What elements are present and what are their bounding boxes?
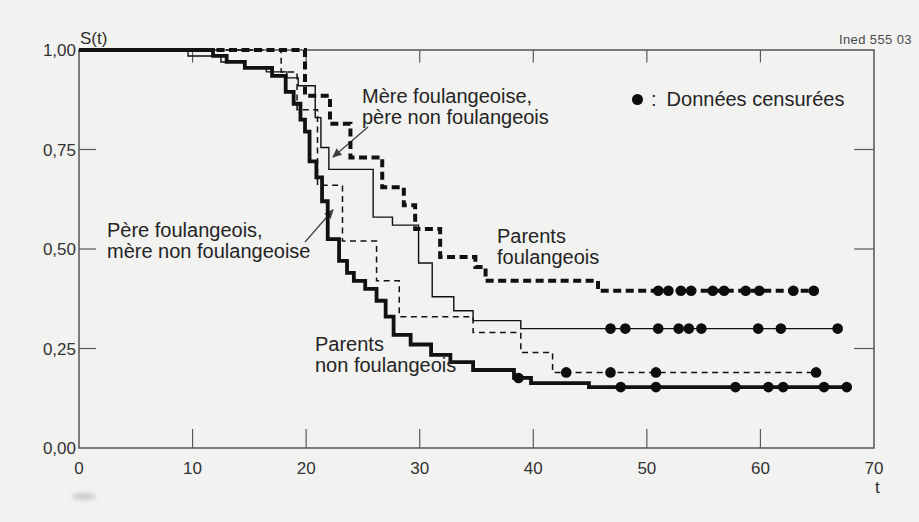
censored-point (620, 323, 631, 334)
censored-point (513, 373, 524, 384)
x-tick-label: 10 (163, 459, 223, 479)
annotation-line: père non foulangeois (362, 107, 549, 128)
x-tick-label: 50 (617, 459, 677, 479)
censored-point (811, 367, 822, 378)
censored-point (653, 285, 664, 296)
censored-point (651, 382, 662, 393)
censored-point (651, 367, 662, 378)
y-tick-label: 0,50 (28, 240, 76, 260)
y-tick-label: 0,25 (28, 340, 76, 360)
y-tick-label: 0,75 (28, 141, 76, 161)
censored-point (605, 323, 616, 334)
y-axis-title: S(t) (80, 29, 107, 49)
censored-point (605, 367, 616, 378)
source-note: Ined 555 03 (839, 32, 912, 47)
annotation-line: Parents (497, 226, 599, 247)
censored-point (778, 382, 789, 393)
censored-point (753, 323, 764, 334)
censored-point (819, 382, 830, 393)
censored-point (832, 323, 843, 334)
annotation-line: Père foulangeois, (107, 220, 310, 241)
annotation-line: non foulangeois (315, 355, 456, 376)
censored-point (615, 382, 626, 393)
censored-point (696, 323, 707, 334)
annotation-line: Mère foulangeoise, (362, 86, 549, 107)
y-tick-label: 1,00 (28, 41, 76, 61)
x-tick-label: 60 (730, 459, 790, 479)
censored-point (776, 323, 787, 334)
x-tick-label: 0 (49, 459, 109, 479)
x-tick-label: 40 (503, 459, 563, 479)
censored-point (788, 285, 799, 296)
censored-point (663, 285, 674, 296)
x-tick-label: 30 (390, 459, 450, 479)
censored-point (684, 323, 695, 334)
censored-point (653, 323, 664, 334)
censored-point (707, 285, 718, 296)
annotation-pere-foulangeois: Père foulangeois, mère non foulangeoise (107, 220, 310, 262)
censored-point (740, 285, 751, 296)
x-tick-label: 20 (276, 459, 336, 479)
censored-point (754, 285, 765, 296)
censored-dot-icon (632, 94, 643, 105)
censored-point (841, 382, 852, 393)
censored-point (686, 285, 697, 296)
y-tick-label: 0,00 (28, 439, 76, 459)
x-axis-title: t (875, 478, 880, 498)
censored-legend: : Données censurées (632, 88, 844, 111)
annotation-line: Parents (315, 334, 456, 355)
censored-point (763, 382, 774, 393)
censored-point (561, 367, 572, 378)
survival-figure: S(t) t Ined 555 03 : Données censurées M… (0, 0, 919, 522)
annotation-parents-foulangeois: Parents foulangeois (497, 226, 599, 268)
censored-point (719, 285, 730, 296)
annotation-parents-non-foulangeois: Parents non foulangeois (315, 334, 456, 376)
x-tick-label: 70 (844, 459, 904, 479)
annotation-line: foulangeois (497, 247, 599, 268)
censored-point (676, 285, 687, 296)
annotation-mere-foulangeoise: Mère foulangeoise, père non foulangeois (362, 86, 549, 128)
censored-point (673, 323, 684, 334)
censored-point (809, 285, 820, 296)
scan-artifact (72, 493, 96, 500)
censored-point (730, 382, 741, 393)
legend-separator: : (651, 88, 657, 111)
legend-label: Données censurées (667, 88, 845, 111)
annotation-line: mère non foulangeoise (107, 241, 310, 262)
